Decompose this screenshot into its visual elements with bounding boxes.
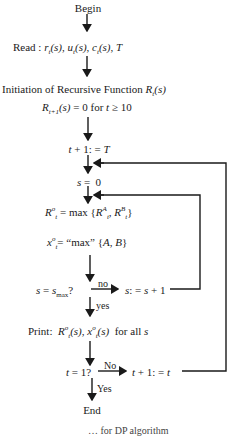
decision-t-node: t = 1? [66,366,91,378]
init-cond: Rt+1(s) = 0 for t ≥ 10 [42,101,132,113]
x-opt-node: xot= “max” {A, B} [47,236,127,248]
assign-s-node: s = 0 [77,176,101,188]
inc-s-node: s: = s + 1 [125,284,166,296]
r-opt-node: Rot = max {RAt, RBt} [45,206,133,218]
print-node: Print: Rot(s), xot(s) for all s [28,325,148,337]
end-node: End [83,404,101,416]
read-label: Read : [13,41,41,53]
init-title: Initiation of Recursive Function [2,83,143,95]
edge-label-t-no: No [104,360,116,372]
print-label: Print: [28,325,52,337]
begin-node: Begin [75,2,101,14]
edge-label-s-no: no [98,278,108,290]
assign-t-node: t + 1: = T [68,143,109,155]
decision-s-node: s = smax? [36,284,73,296]
edge-label-t-yes: Yes [97,383,112,395]
init-fn: Rt(s) [146,83,166,95]
edge-label-s-yes: yes [96,300,109,312]
dec-t-node: t + 1: = t [132,366,170,378]
loop-outer-line [100,163,226,371]
init-node: Initiation of Recursive Function Rt(s) [2,83,166,95]
read-vars: rt(s), ut(s), ct(s), T [44,41,122,53]
figure-caption-partial: … for DP algorithm [88,425,168,437]
read-node: Read : rt(s), ut(s), ct(s), T [13,41,122,53]
